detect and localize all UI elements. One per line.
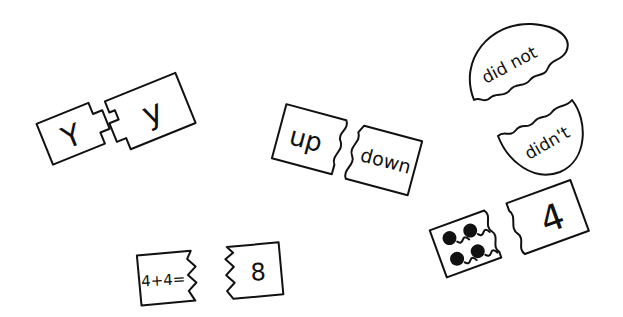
puzzle-piece-lowercase-y: y (101, 73, 195, 153)
puzzle-pair-addition: 4+4= 8 (137, 242, 284, 305)
puzzle-pair-letter-case: Y y (37, 73, 196, 165)
puzzle-pair-contraction: did not didn't (470, 24, 583, 175)
puzzle-piece-four-dots (430, 210, 503, 277)
puzzle-pair-opposites: up down (272, 104, 422, 195)
puzzle-piece-equation: 4+4= (137, 251, 198, 306)
puzzle-piece-down: down (344, 124, 422, 195)
puzzle-illustration: Y y up down did not didn't (0, 0, 623, 317)
puzzle-pair-count-dots: 4 (430, 180, 589, 277)
piece-label: 8 (250, 258, 267, 287)
puzzle-piece-answer: 8 (225, 242, 284, 299)
puzzle-piece-up: up (272, 104, 348, 175)
puzzle-piece-number-four: 4 (505, 180, 589, 255)
piece-label: 4+4= (141, 270, 186, 290)
puzzle-piece-uppercase-y: Y (37, 99, 115, 165)
